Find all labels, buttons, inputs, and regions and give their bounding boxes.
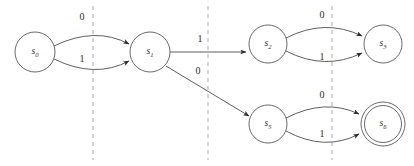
state-node-s2[interactable]: s2 (249, 25, 287, 63)
state-node-s3[interactable]: s3 (364, 25, 402, 63)
transition-label-s0-s1-0: 0 (80, 11, 85, 22)
state-node-s1[interactable]: s1 (130, 32, 170, 72)
transition-label-s5-s6-0: 0 (320, 89, 325, 100)
transition-label-s1-s2-1: 1 (198, 33, 203, 44)
state-label-s3-subscript: 3 (382, 42, 387, 49)
transition-labels-group: 0 1 1 0 0 1 0 1 (80, 9, 325, 139)
transition-label-s2-s3-0: 0 (320, 9, 325, 20)
transition-label-s1-s5-0: 0 (196, 65, 201, 76)
transitions-group (54, 27, 362, 142)
transition-label-s5-s6-1: 1 (320, 128, 325, 139)
state-node-s6[interactable]: s6 (361, 102, 405, 146)
transition-edge-s2-s3-0 (286, 27, 362, 38)
state-node-s5[interactable]: s5 (249, 105, 287, 143)
stage-dividers-group (93, 6, 332, 160)
state-node-s0[interactable]: s0 (15, 32, 55, 72)
state-transition-diagram: 0 1 1 0 0 1 0 1 s0 s1 (0, 0, 414, 166)
transition-label-s0-s1-1: 1 (80, 53, 85, 64)
state-diagram-canvas: 0 1 1 0 0 1 0 1 s0 s1 (0, 0, 414, 166)
transition-edge-s0-s1-1 (54, 59, 129, 70)
transition-label-s2-s3-1: 1 (320, 51, 325, 62)
states-group: s0 s1 s2 s3 (15, 25, 405, 146)
transition-edge-s5-s6-0 (286, 107, 359, 118)
transition-edge-s0-s1-0 (54, 35, 129, 46)
state-label-s1-subscript: 1 (150, 50, 153, 57)
